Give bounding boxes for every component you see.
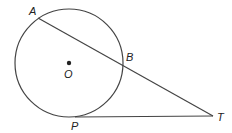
label-o: O — [64, 68, 73, 80]
label-a: A — [28, 5, 36, 17]
geometry-diagram: A B O P T — [0, 0, 232, 133]
label-p: P — [71, 120, 79, 132]
center-point-o — [67, 61, 71, 65]
label-t: T — [217, 111, 225, 123]
label-b: B — [126, 51, 133, 63]
tangent-line-pt — [75, 116, 213, 117]
secant-line-at — [38, 18, 213, 116]
